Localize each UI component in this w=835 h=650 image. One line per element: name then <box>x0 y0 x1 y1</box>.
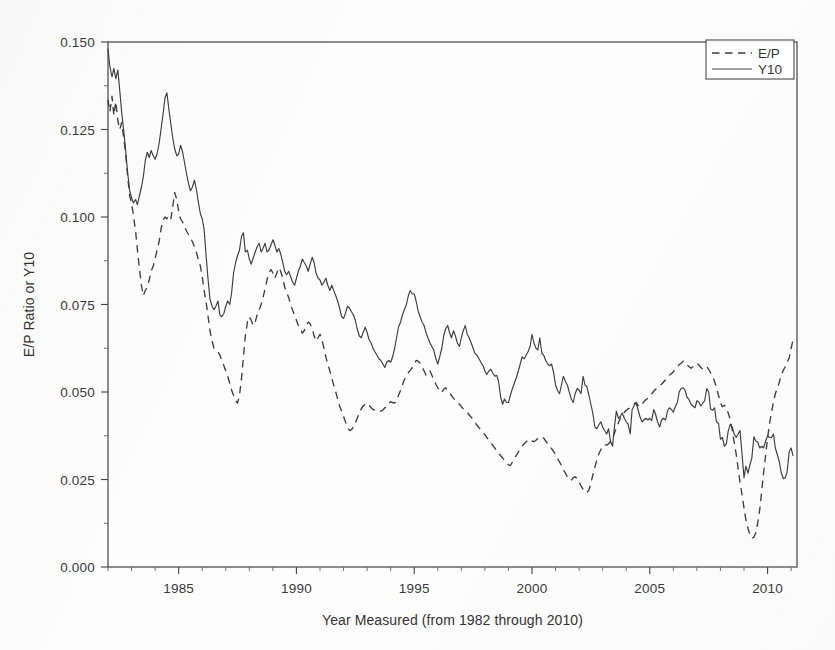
y-tick-label: 0.050 <box>60 385 95 400</box>
y-axis-title: E/P Ratio or Y10 <box>21 252 37 357</box>
y-axis-tick-labels: 0.0000.0250.0500.0750.1000.1250.150 <box>60 35 95 575</box>
x-axis-title: Year Measured (from 1982 through 2010) <box>322 612 583 628</box>
x-tick-label: 2000 <box>517 581 548 596</box>
x-tick-label: 1995 <box>399 581 430 596</box>
y-tick-label: 0.075 <box>60 298 95 313</box>
y-axis-ticks <box>101 42 108 567</box>
y-tick-label: 0.100 <box>60 210 95 225</box>
x-tick-label: 1990 <box>281 581 312 596</box>
x-axis-tick-labels: 198519901995200020052010 <box>163 581 783 596</box>
y-tick-label: 0.025 <box>60 473 95 488</box>
x-axis-ticks <box>108 567 791 574</box>
legend-label-ep: E/P <box>758 46 780 61</box>
data-series-group <box>108 49 793 538</box>
y-tick-label: 0.000 <box>60 560 95 575</box>
series-line-e-p <box>108 96 793 538</box>
x-tick-label: 1985 <box>163 581 194 596</box>
ep-y10-line-chart: 0.0000.0250.0500.0750.1000.1250.150 1985… <box>0 0 835 650</box>
x-tick-label: 2010 <box>752 581 783 596</box>
y-tick-label: 0.150 <box>60 35 95 50</box>
x-tick-label: 2005 <box>634 581 665 596</box>
y-tick-label: 0.125 <box>60 123 95 138</box>
legend-label-y10: Y10 <box>758 62 782 77</box>
chart-figure: 0.0000.0250.0500.0750.1000.1250.150 1985… <box>0 0 835 650</box>
chart-legend: E/P Y10 <box>706 40 794 79</box>
series-line-y10 <box>108 49 793 479</box>
